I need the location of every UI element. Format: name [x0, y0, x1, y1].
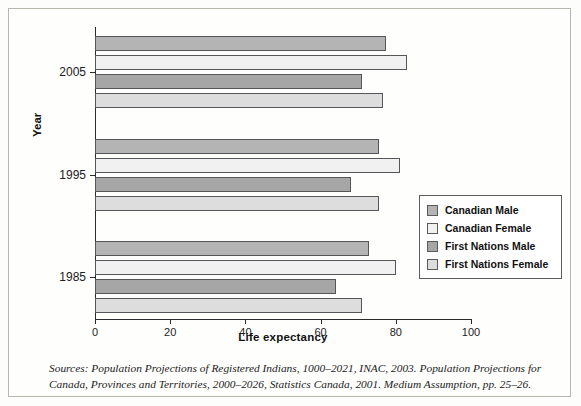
chart-legend: Canadian MaleCanadian FemaleFirst Nation… — [419, 195, 562, 279]
y-tick — [90, 277, 95, 278]
x-tick — [471, 319, 472, 324]
legend-label: First Nations Male — [445, 240, 535, 252]
bar — [95, 55, 407, 70]
figure-frame: 020406080100 200519951985 Life expectanc… — [8, 8, 571, 397]
bar — [95, 139, 379, 154]
bar — [95, 93, 383, 108]
figure-page: 020406080100 200519951985 Life expectanc… — [0, 0, 581, 406]
bar — [95, 74, 362, 89]
legend-swatch-icon — [427, 241, 438, 252]
source-note: Sources: Population Projections of Regis… — [49, 361, 554, 392]
bar — [95, 158, 400, 173]
y-tick-label: 2005 — [59, 65, 86, 79]
legend-label: First Nations Female — [445, 258, 548, 270]
plot-area: 020406080100 200519951985 — [95, 27, 471, 319]
source-line-1: Sources: Population Projections of Regis… — [49, 362, 541, 374]
legend-swatch-icon — [427, 259, 438, 270]
legend-swatch-icon — [427, 223, 438, 234]
legend-item: Canadian Male — [427, 201, 555, 219]
legend-item: First Nations Male — [427, 237, 555, 255]
bar — [95, 36, 386, 51]
y-tick-label: 1985 — [59, 270, 86, 284]
bar — [95, 196, 379, 211]
legend-item: Canadian Female — [427, 219, 555, 237]
legend-label: Canadian Male — [445, 204, 519, 216]
bar — [95, 177, 351, 192]
legend-swatch-icon — [427, 205, 438, 216]
x-tick — [170, 319, 171, 324]
source-line-2: Canada, Provinces and Territories, 2000–… — [49, 378, 531, 390]
y-axis-title: Year — [31, 113, 43, 137]
y-tick — [90, 72, 95, 73]
y-axis-line — [95, 27, 96, 319]
y-tick-label: 1995 — [59, 168, 86, 182]
bar — [95, 298, 362, 313]
bar — [95, 241, 369, 256]
legend-item: First Nations Female — [427, 255, 555, 273]
x-tick — [245, 319, 246, 324]
x-axis-line — [95, 319, 471, 320]
y-tick — [90, 175, 95, 176]
x-tick — [321, 319, 322, 324]
legend-label: Canadian Female — [445, 222, 531, 234]
bar — [95, 279, 336, 294]
x-tick — [396, 319, 397, 324]
x-axis-title: Life expectancy — [95, 331, 471, 343]
x-tick — [95, 319, 96, 324]
bar — [95, 260, 396, 275]
